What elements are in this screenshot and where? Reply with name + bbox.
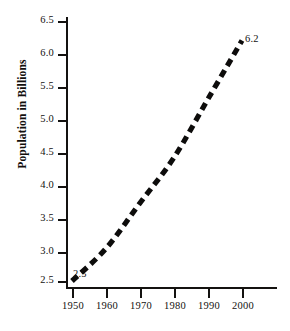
plot-area xyxy=(0,0,290,331)
population-line-chart: Population in Billions 6.5 6.0 5.5 5.0 4… xyxy=(0,0,290,331)
data-label-end: 6.2 xyxy=(245,33,259,44)
data-label-start: 2.5 xyxy=(73,268,87,279)
population-series-line xyxy=(72,41,242,282)
